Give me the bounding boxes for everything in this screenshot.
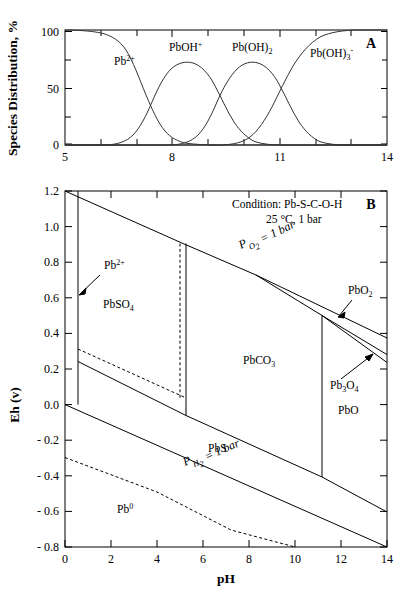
- panel-b: 1.2 1.0 0.8 0.6 0.4 0.2 0.0 - 0.2 - 0.4 …: [7, 184, 393, 586]
- panel-b-xtick-4: 4: [154, 552, 160, 566]
- panel-a-label-pboh-plus: PbOH+: [169, 40, 203, 53]
- panel-a: 100 50 0 5 8 11 14 Species Distribution,…: [5, 20, 393, 164]
- panel-a-xtick-14: 14: [381, 150, 393, 164]
- pbo2-arrow-icon: [339, 300, 352, 316]
- panel-b-label-pbo: PbO: [338, 404, 358, 416]
- panel-b-xtick-14: 14: [381, 552, 393, 566]
- panel-b-letter: B: [366, 197, 375, 212]
- boundary-ph2-lower: [65, 405, 387, 547]
- pb2plus-arrowhead-icon: [79, 288, 86, 295]
- panel-b-ytick-neg0_8: - 0.8: [37, 540, 59, 554]
- panel-b-xtick-12: 12: [335, 552, 347, 566]
- panel-a-y-axis-title: Species Distribution, %: [5, 20, 20, 156]
- panel-b-xtick-6: 6: [200, 552, 206, 566]
- panel-a-label-pb2plus: Pb2+: [114, 54, 135, 67]
- panel-b-label-pbso4: PbSO4: [103, 298, 134, 313]
- panel-b-label-pb3o4: Pb3O4: [330, 379, 358, 394]
- boundary-pbso4-pbs-dashed: [78, 349, 186, 398]
- svg-text:2: 2: [198, 458, 207, 469]
- panel-b-ytick-1_0: 1.0: [44, 220, 59, 234]
- svg-text:= 1 bar: = 1 bar: [202, 436, 242, 464]
- panel-b-xtick-2: 2: [108, 552, 114, 566]
- panel-b-xtick-0: 0: [62, 552, 68, 566]
- figure-container: 100 50 0 5 8 11 14 Species Distribution,…: [0, 0, 410, 599]
- panel-b-ytick-neg0_2: - 0.2: [37, 433, 59, 447]
- panel-b-label-pbco3: PbCO3: [243, 354, 275, 369]
- panel-b-y-axis-title: Eh (v): [7, 387, 22, 423]
- panel-b-x-ticks: [65, 191, 387, 547]
- panel-b-ytick-0_2: 0.2: [44, 362, 59, 376]
- panel-b-ytick-1_2: 1.2: [44, 184, 59, 198]
- panel-a-xtick-8: 8: [169, 150, 175, 164]
- curve-pboh2: [65, 62, 387, 145]
- panel-b-ytick-0_8: 0.8: [44, 255, 59, 269]
- panel-b-ytick-0_4: 0.4: [44, 326, 59, 340]
- panel-a-ytick-100: 100: [41, 25, 59, 39]
- boundary-pb0-dashed: [65, 458, 295, 548]
- panel-b-ytick-0_0: 0.0: [44, 398, 59, 412]
- panel-a-label-pboh2: Pb(OH)2: [232, 41, 272, 56]
- curve-pboh-plus: [65, 62, 387, 145]
- panel-a-ytick-50: 50: [47, 82, 59, 96]
- panel-b-condition-line1: Condition: Pb-S-C-O-H: [232, 198, 342, 210]
- panel-b-ytick-neg0_6: - 0.6: [37, 504, 59, 518]
- panel-b-xtick-8: 8: [246, 552, 252, 566]
- panel-a-xtick-11: 11: [274, 150, 286, 164]
- panel-b-label-pb2plus: Pb2+: [104, 258, 125, 271]
- panel-b-x-axis-title: pH: [217, 571, 236, 586]
- panel-b-label-pbo2: PbO2: [348, 284, 372, 299]
- panel-b-xtick-10: 10: [289, 552, 301, 566]
- boundary-pb3o4-pbo: [322, 316, 387, 355]
- panel-b-label-pb0: Pb0: [117, 502, 133, 515]
- panel-b-frame: [65, 191, 387, 547]
- panel-b-y-ticks: [65, 191, 387, 547]
- panel-b-ytick-neg0_4: - 0.4: [37, 469, 59, 483]
- panel-a-letter: A: [366, 36, 377, 51]
- svg-text:2: 2: [254, 241, 263, 252]
- eh-ph-figure: 100 50 0 5 8 11 14 Species Distribution,…: [0, 0, 410, 599]
- panel-b-ytick-0_6: 0.6: [44, 291, 59, 305]
- panel-a-ytick-0: 0: [53, 138, 59, 152]
- panel-a-xtick-5: 5: [62, 150, 68, 164]
- panel-a-label-pboh3-minus: Pb(OH)3-: [310, 46, 353, 62]
